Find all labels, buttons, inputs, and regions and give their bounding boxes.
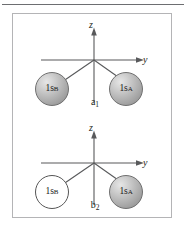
orbital-label-1s-b-a1: 1sB — [36, 73, 68, 105]
orbital-1s-b-b2: 1sB — [35, 175, 69, 209]
orbital-label-text: 1s — [46, 84, 54, 94]
z-axis-label: z — [89, 123, 93, 133]
figure-root: z y 1sB 1sA a1 z y 1sB — [0, 0, 186, 229]
orbital-1s-b-a1: 1sB — [35, 72, 69, 106]
diagram-a1: z y 1sB 1sA a1 — [13, 14, 173, 116]
diagram-b2: z y 1sB 1sA b2 — [13, 117, 173, 219]
symmetry-label-subscript: 1 — [95, 100, 99, 109]
symmetry-label-b2: b2 — [73, 200, 117, 211]
top-horizontal-rule — [2, 4, 184, 5]
figure-panel: z y 1sB 1sA a1 z y 1sB — [12, 13, 172, 218]
orbital-label-text: 1s — [119, 84, 127, 94]
z-axis-label: z — [89, 20, 93, 30]
symmetry-label-subscript: 2 — [96, 203, 100, 212]
orbital-label-subscript: B — [54, 86, 59, 93]
orbital-label-text: 1s — [119, 187, 127, 197]
orbital-label-1s-b-b2: 1sB — [36, 176, 68, 208]
symmetry-label-a1: a1 — [73, 97, 117, 108]
y-axis-label: y — [143, 55, 147, 65]
orbital-label-subscript: A — [128, 189, 133, 196]
orbital-label-text: 1s — [46, 187, 54, 197]
y-axis-label: y — [143, 158, 147, 168]
orbital-label-subscript: B — [54, 189, 59, 196]
orbital-label-subscript: A — [128, 86, 133, 93]
